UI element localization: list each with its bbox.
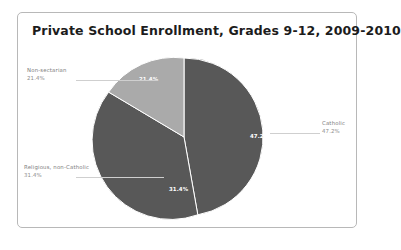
slice-value-religious-non-catholic: 31.4% — [169, 186, 188, 192]
pie-chart: 47.2% 31.4% 21.4% Non-sectarian 21.4% Re… — [18, 13, 358, 229]
callout-value-religious-non-catholic: 31.4% — [24, 171, 89, 179]
slice-value-catholic: 47.2% — [250, 133, 269, 139]
callout-religious-non-catholic: Religious, non-Catholic 31.4% — [24, 163, 89, 179]
chart-frame: Private School Enrollment, Grades 9-12, … — [17, 12, 357, 228]
callout-label-catholic: Catholic — [322, 119, 345, 127]
callout-non-sectarian: Non-sectarian 21.4% — [27, 66, 67, 82]
callout-catholic: Catholic 47.2% — [322, 119, 345, 135]
leader-line-catholic — [270, 133, 320, 134]
callout-label-religious-non-catholic: Religious, non-Catholic — [24, 163, 89, 171]
slice-value-non-sectarian: 21.4% — [139, 76, 158, 82]
pie-svg — [18, 13, 358, 229]
callout-value-catholic: 47.2% — [322, 127, 345, 135]
callout-value-non-sectarian: 21.4% — [27, 74, 67, 82]
leader-line-non-sectarian — [76, 80, 158, 81]
callout-label-non-sectarian: Non-sectarian — [27, 66, 67, 74]
leader-line-religious-non-catholic — [76, 177, 164, 178]
